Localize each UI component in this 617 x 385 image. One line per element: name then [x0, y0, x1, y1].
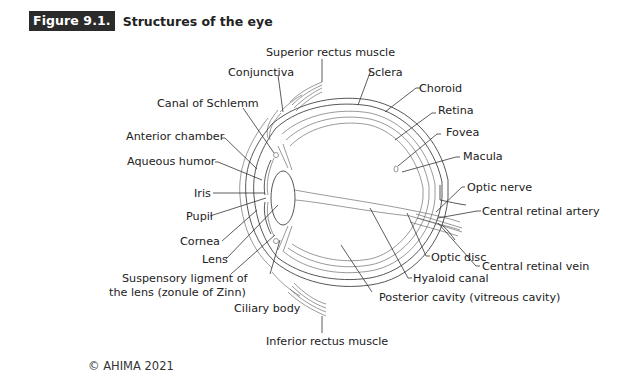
label-aqueous-humor: Aqueous humor — [127, 155, 216, 168]
label-canal-schlemm: Canal of Schlemm — [157, 97, 259, 110]
label-optic-nerve: Optic nerve — [467, 181, 532, 194]
label-choroid: Choroid — [419, 82, 462, 95]
label-iris: Iris — [194, 187, 211, 200]
label-fovea: Fovea — [446, 126, 479, 139]
label-retina: Retina — [438, 104, 474, 117]
label-optic-disc: Optic disc — [431, 251, 486, 264]
label-lens: Lens — [202, 253, 228, 266]
label-posterior-cavity: Posterior cavity (vitreous cavity) — [379, 291, 560, 304]
labels: Superior rectus muscle Conjunctiva Scler… — [109, 46, 600, 348]
label-suspensory-line2: the lens (zonule of Zinn) — [109, 286, 246, 299]
label-hyaloid-canal: Hyaloid canal — [413, 272, 489, 285]
label-ciliary-body: Ciliary body — [234, 302, 301, 315]
label-cornea: Cornea — [180, 235, 220, 248]
label-superior-rectus: Superior rectus muscle — [266, 46, 395, 59]
label-inferior-rectus: Inferior rectus muscle — [266, 335, 388, 348]
label-conjunctiva: Conjunctiva — [228, 66, 294, 79]
label-central-retinal-vein: Central retinal vein — [482, 260, 589, 273]
label-pupil: Pupil — [186, 210, 213, 223]
copyright-text: © AHIMA 2021 — [88, 359, 174, 373]
label-anterior-chamber: Anterior chamber — [126, 130, 225, 143]
label-macula: Macula — [463, 150, 503, 163]
label-central-retinal-artery: Central retinal artery — [482, 205, 600, 218]
eye-diagram: Superior rectus muscle Conjunctiva Scler… — [0, 0, 617, 385]
label-sclera: Sclera — [368, 66, 403, 79]
label-suspensory-line1: Suspensory ligment of — [122, 272, 249, 285]
